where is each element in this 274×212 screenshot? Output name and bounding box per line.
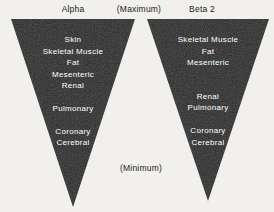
list-item: Skeletal Muscle bbox=[13, 46, 133, 58]
list-item: Fat bbox=[13, 57, 133, 69]
list-item: Coronary bbox=[13, 126, 133, 138]
minimum-scale-label: (Minimum) bbox=[110, 163, 172, 173]
list-item: Cerebral bbox=[13, 137, 133, 149]
list-item: Pulmonary bbox=[13, 103, 133, 115]
receptor-distribution-figure: Alpha (Maximum) Beta 2 (Minimum) bbox=[0, 0, 274, 212]
list-item: Cerebral bbox=[148, 137, 268, 149]
list-item: Skin bbox=[13, 34, 133, 46]
list-item: Renal bbox=[148, 91, 268, 103]
list-item: Pulmonary bbox=[148, 102, 268, 114]
list-item: Fat bbox=[148, 46, 268, 58]
maximum-scale-label: (Maximum) bbox=[108, 4, 170, 14]
alpha-column-title: Alpha bbox=[43, 4, 103, 14]
list-item: Mesenteric bbox=[13, 69, 133, 81]
list-item: Renal bbox=[13, 80, 133, 92]
alpha-tissue-list: Skin Skeletal Muscle Fat Mesenteric Rena… bbox=[13, 34, 133, 149]
beta2-tissue-list: Skeletal Muscle Fat Mesenteric Renal Pul… bbox=[148, 34, 268, 148]
list-item: Skeletal Muscle bbox=[148, 34, 268, 46]
list-item: Mesenteric bbox=[148, 57, 268, 69]
beta2-column-title: Beta 2 bbox=[172, 4, 232, 14]
list-item: Coronary bbox=[148, 125, 268, 137]
